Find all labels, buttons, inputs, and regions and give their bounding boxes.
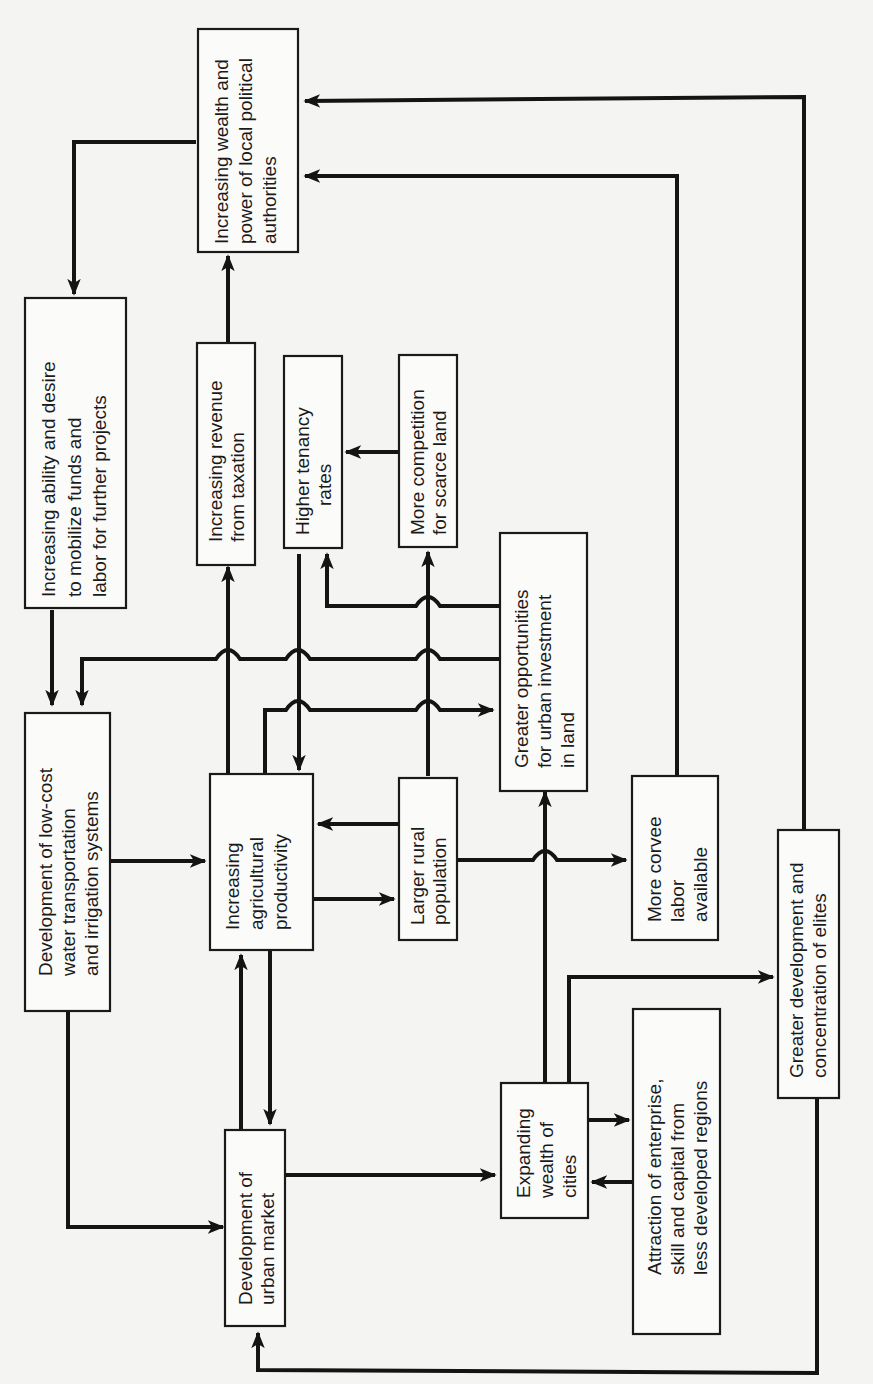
node-water-transport-line-3: and irrigation systems	[81, 791, 102, 976]
node-corvee-line-2: labor	[667, 879, 688, 922]
node-water-transport: Development of low-cost water transporta…	[25, 713, 110, 1011]
edge-urban-investment-to-water-transport	[82, 650, 500, 705]
node-corvee: More corvee labor available	[632, 776, 718, 940]
node-urban-market-line-2: urban market	[257, 1192, 278, 1305]
node-rural-population-line-1: Larger rural	[407, 827, 428, 925]
node-attraction-line-1: Attraction of enterprise,	[644, 1079, 665, 1275]
node-agri-productivity: Increasing agricultural productivity	[210, 774, 313, 950]
node-expanding-wealth-line-2: wealth of	[536, 1121, 557, 1199]
node-urban-market-line-1: Development of	[235, 1171, 256, 1305]
node-revenue-tax-line-1: Increasing revenue	[205, 380, 226, 542]
node-rural-population: Larger rural population	[399, 778, 457, 940]
node-elites: Greater development and concentration of…	[778, 830, 839, 1098]
node-water-transport-line-1: Development of low-cost	[35, 767, 56, 976]
node-rural-population-line-2: population	[429, 837, 450, 925]
node-revenue-tax-line-2: from taxation	[227, 432, 248, 542]
edge-urban-investment-to-tenancy	[327, 554, 500, 606]
node-competition: More competition for scarce land	[399, 355, 457, 547]
node-wealth-power-line-3: authorities	[259, 156, 280, 244]
node-ability-desire: Increasing ability and desire to mobiliz…	[25, 298, 126, 608]
node-competition-line-1: More competition	[407, 389, 428, 535]
edge-water-transport-to-urban-market	[68, 1012, 223, 1227]
node-attraction-line-3: less developed regions	[690, 1081, 711, 1275]
node-agri-productivity-line-3: productivity	[270, 833, 291, 930]
node-agri-productivity-line-2: agricultural	[246, 837, 267, 930]
node-attraction-line-2: skill and capital from	[667, 1103, 688, 1275]
node-ability-desire-line-2: to mobilize funds and	[64, 417, 85, 597]
edge-wealth-power-to-ability-desire	[74, 142, 196, 294]
edge-rural-population-to-corvee	[458, 851, 626, 860]
node-ability-desire-line-3: labor for further projects	[89, 395, 110, 597]
node-expanding-wealth-line-1: Expanding	[513, 1108, 534, 1198]
node-corvee-line-3: available	[690, 847, 711, 922]
node-attraction: Attraction of enterprise, skill and capi…	[633, 1009, 720, 1334]
node-wealth-power-line-2: power of local political	[235, 58, 256, 244]
node-revenue-tax: Increasing revenue from taxation	[197, 343, 255, 565]
node-urban-investment: Greater opportunities for urban investme…	[500, 533, 587, 791]
node-urban-investment-line-1: Greater opportunities	[511, 590, 532, 769]
node-urban-market: Development of urban market	[225, 1130, 285, 1326]
edge-corvee-to-wealth-power	[305, 176, 677, 776]
node-corvee-line-1: More corvee	[644, 816, 665, 922]
node-competition-line-2: for scarce land	[429, 410, 450, 535]
node-wealth-power: Increasing wealth and power of local pol…	[198, 29, 298, 252]
node-expanding-wealth-line-3: cities	[559, 1155, 580, 1198]
node-elites-line-2: concentration of elites	[809, 893, 830, 1078]
node-wealth-power-line-1: Increasing wealth and	[211, 59, 232, 244]
node-agri-productivity-line-1: Increasing	[222, 842, 243, 930]
node-tenancy-line-2: rates	[314, 464, 335, 506]
node-tenancy: Higher tenancy rates	[284, 356, 342, 548]
node-urban-investment-line-3: in land	[557, 712, 578, 768]
node-expanding-wealth: Expanding wealth of cities	[501, 1083, 588, 1218]
node-elites-line-1: Greater development and	[786, 863, 807, 1078]
flow-diagram: Increasing wealth and power of local pol…	[0, 0, 873, 1384]
node-tenancy-line-1: Higher tenancy	[292, 407, 313, 535]
node-urban-investment-line-2: for urban investment	[534, 594, 555, 768]
node-water-transport-line-2: water transportation	[58, 808, 79, 977]
node-ability-desire-line-1: Increasing ability and desire	[38, 361, 59, 597]
